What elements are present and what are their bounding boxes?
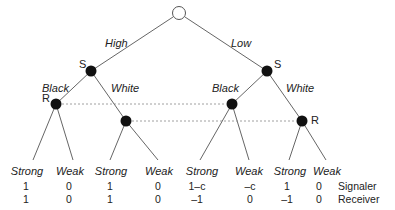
payoff-receiver-7: –1 — [281, 193, 293, 205]
payoff-signaler-4: 0 — [155, 180, 161, 192]
player-label-s-left: S — [79, 58, 86, 70]
leaf-action-3: Strong — [95, 165, 127, 177]
leaf-action-1: Strong — [11, 165, 43, 177]
payoff-signaler-3: 1 — [107, 180, 113, 192]
game-tree-edges — [0, 0, 395, 210]
signaler-node-low — [262, 66, 273, 77]
payoff-signaler-6: –c — [244, 180, 255, 192]
leaf-action-6: Weak — [235, 165, 263, 177]
payoff-receiver-2: 0 — [66, 193, 72, 205]
payoff-receiver-1: 1 — [23, 193, 29, 205]
row-label-signaler: Signaler — [338, 180, 377, 192]
leaf-action-5: Strong — [186, 165, 218, 177]
payoff-signaler-8: 0 — [316, 180, 322, 192]
player-label-r-right: R — [311, 114, 319, 126]
receiver-node-high-white — [121, 116, 132, 127]
payoff-receiver-8: 0 — [316, 193, 322, 205]
leaf-action-2: Weak — [56, 165, 84, 177]
receiver-node-low-black — [227, 99, 238, 110]
player-label-s-right: S — [274, 58, 281, 70]
signal-black-high: Black — [42, 82, 69, 94]
signaler-node-high — [86, 66, 97, 77]
leaf-action-7: Strong — [274, 165, 306, 177]
receiver-node-low-white — [297, 116, 308, 127]
payoff-receiver-4: 0 — [155, 193, 161, 205]
payoff-signaler-2: 0 — [66, 180, 72, 192]
payoff-receiver-5: –1 — [191, 193, 203, 205]
payoff-signaler-7: 1 — [284, 180, 290, 192]
signal-black-low: Black — [212, 82, 239, 94]
payoff-signaler-5: 1–c — [189, 180, 206, 192]
nature-move-low: Low — [231, 37, 251, 49]
leaf-action-4: Weak — [145, 165, 173, 177]
signal-white-low: White — [286, 82, 314, 94]
signal-white-high: White — [111, 82, 139, 94]
nature-move-high: High — [105, 37, 128, 49]
chance-node — [173, 7, 186, 20]
payoff-signaler-1: 1 — [23, 180, 29, 192]
leaf-action-8: Weak — [313, 165, 341, 177]
payoff-receiver-6: 0 — [247, 193, 253, 205]
row-label-receiver: Receiver — [338, 193, 379, 205]
receiver-node-high-black — [51, 99, 62, 110]
payoff-receiver-3: 1 — [107, 193, 113, 205]
